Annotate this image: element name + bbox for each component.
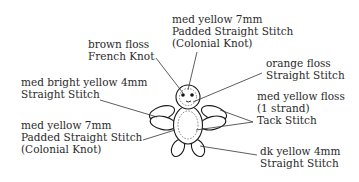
label-text: Tack Stitch — [257, 114, 317, 126]
label-top-center: med yellow 7mm Padded Straight Stitch (C… — [172, 13, 294, 49]
label-text: brown floss — [88, 38, 149, 50]
label-text: (Colonial Knot) — [172, 37, 252, 49]
label-text: dk yellow 4mm — [260, 145, 341, 157]
stitch-diagram: med yellow 7mm Padded Straight Stitch (C… — [0, 0, 359, 182]
left-eye-icon — [181, 93, 185, 97]
label-text: Straight Stitch — [21, 88, 100, 100]
leader-orange-floss — [193, 73, 262, 102]
leader-med-bright-yellow — [100, 100, 157, 117]
label-brown-floss: brown floss French Knot — [88, 38, 155, 62]
label-dk-yellow: dk yellow 4mm Straight Stitch — [260, 145, 341, 169]
label-left-bottom: med yellow 7mm Padded Straight Stitch (C… — [21, 119, 143, 155]
label-text: Straight Stitch — [266, 69, 345, 81]
label-med-bright-yellow: med bright yellow 4mm Straight Stitch — [21, 76, 148, 100]
leader-dk-yellow — [200, 146, 257, 155]
label-orange-floss: orange floss Straight Stitch — [266, 57, 345, 81]
label-text: Padded Straight Stitch — [172, 25, 294, 37]
label-text: (Colonial Knot) — [21, 143, 101, 155]
label-text: Padded Straight Stitch — [21, 131, 143, 143]
label-text: French Knot — [88, 50, 155, 62]
leader-left-bottom — [143, 130, 175, 140]
label-text: med yellow 7mm — [172, 13, 262, 25]
label-text: orange floss — [266, 57, 331, 69]
right-eye-icon — [190, 93, 194, 97]
bug-figure — [148, 85, 229, 159]
label-text: med yellow 7mm — [21, 119, 111, 131]
label-text: Straight Stitch — [260, 157, 339, 169]
label-tack-stitch: med yellow floss (1 strand) Tack Stitch — [257, 90, 345, 126]
label-text: (1 strand) — [257, 102, 310, 114]
leader-brown-floss — [156, 58, 183, 93]
left-lower-wing — [149, 114, 177, 132]
label-text: med bright yellow 4mm — [21, 76, 148, 88]
label-text: med yellow floss — [257, 90, 345, 102]
leader-top-center — [188, 52, 197, 90]
